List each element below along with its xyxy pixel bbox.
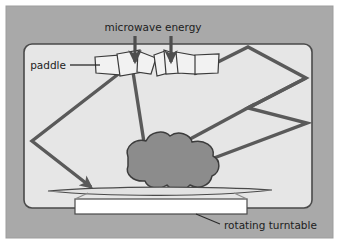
diagram-figure: microwave energy paddle rotating turntab… [0,0,339,244]
label-paddle: paddle [30,59,66,71]
paddle-blade-7 [195,54,219,74]
turntable-base [75,199,247,214]
diagram-canvas: microwave energy paddle rotating turntab… [0,0,339,244]
microwave-diagram-root: microwave energy paddle rotating turntab… [0,0,339,244]
label-rotating-turntable: rotating turntable [224,219,317,231]
label-microwave-energy: microwave energy [104,21,201,33]
